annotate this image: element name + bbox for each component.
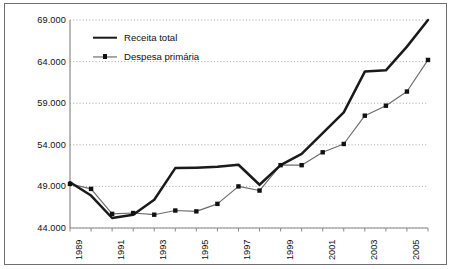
legend-label-receita-total: Receita total <box>124 32 177 43</box>
x-axis-tick-label-1997: 1997 <box>242 240 252 260</box>
legend-swatch-line-marker-icon <box>92 51 118 63</box>
chart-figure: 44.00049.00054.00059.00064.00069.000 198… <box>0 0 452 269</box>
chart-legend: Receita total Despesa primária <box>92 28 242 66</box>
legend-item-receita-total: Receita total <box>92 28 242 47</box>
x-axis-tick-label-1989: 1989 <box>74 240 84 260</box>
x-axis-tick-label-2001: 2001 <box>327 240 337 260</box>
x-axis-tick-label-1991: 1991 <box>116 240 126 260</box>
x-axis-tick-label-1999: 1999 <box>285 240 295 260</box>
legend-swatch-line-icon <box>92 32 118 44</box>
x-axis-tick-label-1995: 1995 <box>200 240 210 260</box>
x-axis-tick-label-2003: 2003 <box>369 240 379 260</box>
x-axis-tick-label-1993: 1993 <box>158 240 168 260</box>
legend-item-despesa-primaria: Despesa primária <box>92 47 242 66</box>
x-axis-tick-label-2005: 2005 <box>411 240 421 260</box>
legend-label-despesa-primaria: Despesa primária <box>124 51 199 62</box>
